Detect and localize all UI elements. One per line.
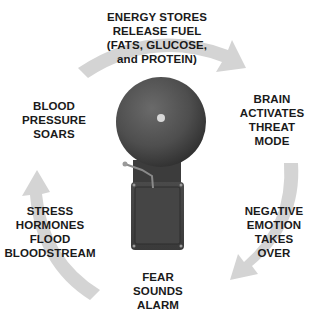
step-blood-pressure: BLOOD PRESSURE SOARS [14, 99, 94, 141]
step-brain-activates: BRAIN ACTIVATES THREAT MODE [236, 92, 308, 148]
step-text: BLOODSTREAM [2, 246, 98, 260]
step-text: FEAR [120, 270, 196, 284]
step-text: NEGATIVE [238, 204, 310, 218]
step-text: RELEASE FUEL [86, 24, 228, 38]
step-text: BRAIN [236, 92, 308, 106]
step-text: PRESSURE [14, 113, 94, 127]
step-text: HORMONES [2, 218, 98, 232]
step-negative-emotion: NEGATIVE EMOTION TAKES OVER [238, 204, 310, 260]
step-text: EMOTION [238, 218, 310, 232]
step-text: FLOOD [2, 232, 98, 246]
step-text: ACTIVATES [236, 106, 308, 120]
step-text: and PROTEIN) [86, 52, 228, 66]
step-text: TAKES [238, 232, 310, 246]
step-text: MODE [236, 134, 308, 148]
step-text: SOARS [14, 127, 94, 141]
step-stress-hormones: STRESS HORMONES FLOOD BLOODSTREAM [2, 204, 98, 260]
step-text: STRESS [2, 204, 98, 218]
step-text: THREAT [236, 120, 308, 134]
step-text: ALARM [120, 298, 196, 312]
step-text: OVER [238, 246, 310, 260]
stress-cycle-diagram: ENERGY STORES RELEASE FUEL (FATS, GLUCOS… [0, 0, 313, 322]
step-text: BLOOD [14, 99, 94, 113]
step-fear-sounds-alarm: FEAR SOUNDS ALARM [120, 270, 196, 312]
step-text: SOUNDS [120, 284, 196, 298]
step-energy-stores: ENERGY STORES RELEASE FUEL (FATS, GLUCOS… [86, 10, 228, 66]
step-text: (FATS, GLUCOSE, [86, 38, 228, 52]
step-text: ENERGY STORES [86, 10, 228, 24]
